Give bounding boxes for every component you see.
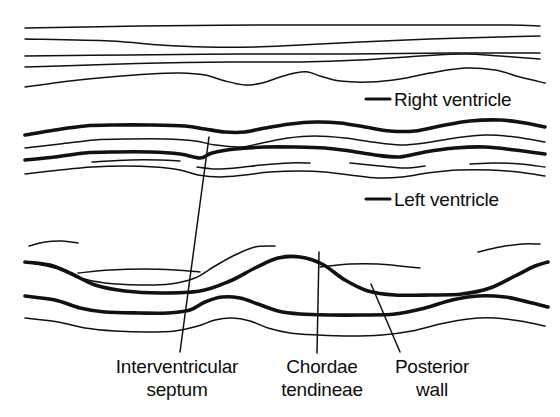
trace-chordae-thick-lower: [25, 296, 548, 315]
callout-line-2: tendineae: [266, 378, 378, 401]
callout-line-2: septum: [86, 378, 268, 401]
trace-interventricular-septum-upper: [25, 68, 545, 87]
echocardiogram-figure: Right ventricle Left ventricle Intervent…: [0, 0, 560, 417]
trace-chest-wall-echo-1: [25, 25, 540, 28]
trace-lv-posterior-thin-a: [92, 160, 180, 162]
trace-septum-upper-fragment-a: [29, 241, 78, 246]
trace-septum-echo-fragment-far-right: [478, 244, 540, 252]
callout-line-2: wall: [378, 378, 486, 401]
callout-label-posterior-wall: Posterior wall: [378, 355, 486, 401]
trace-lv-posterior-thin-c: [350, 163, 425, 168]
legend-label-left-ventricle: Left ventricle: [394, 188, 499, 211]
callout-line-1: Interventricular: [86, 355, 268, 378]
callout-line-1: Chordae: [266, 355, 378, 378]
interventricular-septum-leader: [180, 137, 209, 352]
callout-line-1: Posterior: [378, 355, 486, 378]
callout-label-chordae-tendineae: Chordae tendineae: [266, 355, 378, 401]
trace-lv-lower-boundary-thin: [25, 166, 545, 178]
chordae-tendineae-leader: [317, 252, 319, 353]
callout-label-interventricular-septum: Interventricular septum: [86, 355, 268, 401]
trace-septum-echo-fragment-right: [320, 264, 420, 268]
trace-lv-posterior-thin-d: [470, 163, 545, 167]
trace-lv-posterior-thin-b: [197, 163, 310, 169]
trace-septum-thin-mid-fragment: [78, 269, 200, 273]
trace-lv-chordae-thick: [25, 147, 545, 160]
trace-series-group: [25, 25, 548, 336]
trace-chest-wall-echo-2: [25, 36, 540, 47]
trace-posterior-wall-thin: [25, 318, 545, 336]
legend-label-right-ventricle: Right ventricle: [394, 88, 511, 111]
trace-lv-posterior-septum-thick: [25, 120, 545, 135]
trace-interventricular-septum-thick: [25, 256, 548, 295]
